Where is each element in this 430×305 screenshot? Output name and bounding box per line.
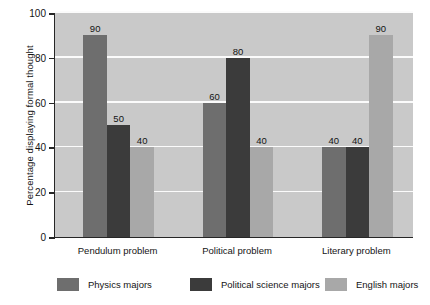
y-axis-tick-label: 100 — [29, 8, 46, 19]
legend-swatch — [325, 278, 347, 291]
bar: 40 — [130, 147, 154, 237]
y-axis-tick-label: 80 — [35, 52, 46, 63]
bar: 90 — [369, 35, 393, 237]
legend-label: Physics majors — [88, 279, 152, 290]
legend-label: English majors — [356, 279, 418, 290]
bar-value-label: 40 — [329, 135, 340, 146]
y-axis-tick — [49, 13, 55, 15]
bar-value-label: 90 — [90, 23, 101, 34]
bar-value-label: 80 — [233, 46, 244, 57]
legend-swatch — [57, 278, 79, 291]
y-axis-tick-label: 20 — [35, 187, 46, 198]
chart-legend: Physics majorsPolitical science majorsEn… — [0, 275, 430, 297]
y-axis-tick — [49, 147, 55, 149]
legend-item: Physics majors — [57, 275, 152, 293]
legend-item: English majors — [325, 275, 418, 293]
y-axis-tick-label: 40 — [35, 142, 46, 153]
x-axis-category-label: Political problem — [202, 245, 272, 256]
y-axis-tick-label: 0 — [40, 232, 46, 243]
legend-swatch — [190, 278, 212, 291]
plot-area: 020406080100905040608040404090 — [54, 13, 413, 238]
y-axis-tick — [49, 103, 55, 105]
y-axis-tick — [49, 58, 55, 60]
x-axis-category-label: Pendulum problem — [78, 245, 158, 256]
bar-value-label: 40 — [352, 135, 363, 146]
bar-chart-figure: Percentage displaying formal thought 020… — [0, 0, 430, 305]
bar: 40 — [346, 147, 370, 237]
bar-value-label: 90 — [376, 23, 387, 34]
bar: 40 — [250, 147, 274, 237]
x-axis-category-label: Literary problem — [322, 245, 391, 256]
bar: 40 — [322, 147, 346, 237]
bar-value-label: 50 — [113, 113, 124, 124]
bar: 50 — [107, 125, 131, 237]
legend-label: Political science majors — [221, 279, 320, 290]
legend-item: Political science majors — [190, 275, 320, 293]
bar-value-label: 40 — [137, 135, 148, 146]
bar: 80 — [226, 58, 250, 237]
bar-value-label: 40 — [256, 135, 267, 146]
bar: 90 — [83, 35, 107, 237]
y-axis-tick — [49, 237, 55, 239]
y-axis-tick-label: 60 — [35, 97, 46, 108]
bar-value-label: 60 — [209, 91, 220, 102]
y-axis-title: Percentage displaying formal thought — [24, 8, 35, 243]
bar: 60 — [203, 103, 227, 237]
y-axis-tick — [49, 192, 55, 194]
gridline — [55, 11, 413, 13]
